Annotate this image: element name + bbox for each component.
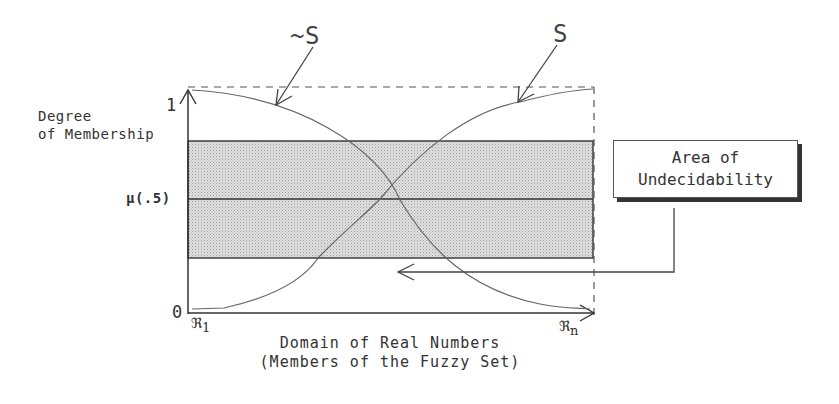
callout-line2: Undecidability xyxy=(638,169,773,191)
y-tick-1: 1 xyxy=(166,95,177,115)
x-axis-label-line2: (Members of the Fuzzy Set) xyxy=(200,353,580,371)
x-axis-label-line1: Domain of Real Numbers xyxy=(200,334,580,352)
s-pointer xyxy=(518,45,557,102)
y-axis-label-line1: Degree xyxy=(38,108,92,124)
undecidability-callout-box: Area of Undecidability xyxy=(613,140,798,198)
s-label: S xyxy=(553,20,568,48)
y-axis-label-line2: of Membership xyxy=(38,126,154,142)
y-tick-0: 0 xyxy=(172,302,183,322)
not-s-label: ~S xyxy=(290,22,320,50)
not-s-pointer xyxy=(276,47,313,105)
callout-line1: Area of xyxy=(672,147,739,169)
y-tick-mu-half: μ(.5) xyxy=(126,190,171,206)
x-start-label: ℜ1 xyxy=(191,315,210,335)
